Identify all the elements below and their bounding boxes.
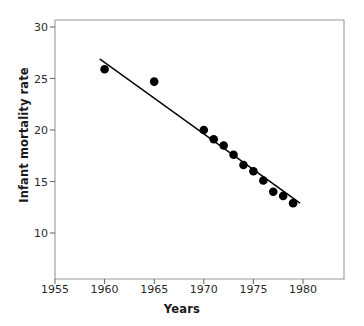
- chart-figure: 1015202530 195519601965197019751980 Infa…: [0, 0, 364, 326]
- data-markers: [100, 65, 297, 208]
- y-axis-title: Infant mortality rate: [17, 35, 31, 235]
- y-axis-ticks: [50, 27, 55, 233]
- x-axis-title: Years: [0, 302, 364, 316]
- plot-frame: [55, 20, 344, 279]
- y-tick-label: 30: [14, 21, 48, 34]
- plot-canvas: [0, 0, 364, 326]
- x-tick-label: 1980: [273, 283, 333, 296]
